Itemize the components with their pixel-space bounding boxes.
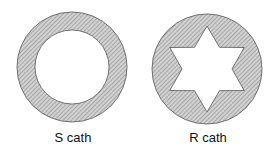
r-cath-cross-section bbox=[152, 14, 262, 124]
r-cath-label: R cath bbox=[168, 130, 248, 145]
s-cath-label: S cath bbox=[33, 130, 113, 145]
s-cath-cross-section bbox=[17, 12, 127, 122]
